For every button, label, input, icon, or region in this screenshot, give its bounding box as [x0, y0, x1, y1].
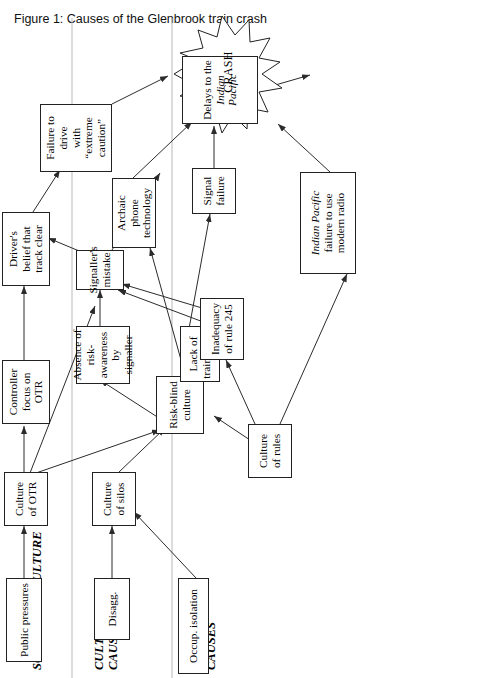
node-culture-otr[interactable]: Culture of OTR [4, 472, 48, 526]
edge-culture-otr-risk-blind [36, 430, 160, 473]
edge-drivers-belief-failure-drive [33, 170, 60, 212]
node-controller-focus[interactable]: Controller focus on OTR [2, 360, 50, 424]
node-ip-radio[interactable]: Indian Pacific failure to use modern rad… [300, 172, 356, 274]
edge-archaic-phone-delays-ip [133, 122, 192, 178]
crash-label: CRASH [215, 34, 241, 110]
node-delays-ip-plain: Delays to the [201, 60, 214, 120]
node-culture-rules[interactable]: Culture of rules [248, 424, 292, 478]
figure-page: Figure 1: Causes of the Glenbrook train … [0, 0, 492, 678]
node-inadequacy-245[interactable]: Inadequacy of rule 245 [200, 298, 244, 360]
node-occup-isolation[interactable]: Occup. isolation [178, 578, 209, 674]
node-absence-risk[interactable]: Absence of risk-awareness by signaller [76, 326, 130, 384]
edge-culture-rules-ip-radio [280, 274, 347, 424]
edge-ip-radio-delays-ip [278, 124, 330, 172]
node-ip-radio-italic: Indian Pacific [309, 191, 322, 255]
node-signallers-mistake[interactable]: Signaller's mistake [76, 250, 124, 290]
node-drivers-belief[interactable]: Driver's belief that track clear [2, 212, 50, 286]
node-risk-blind[interactable]: Risk-blind culture [156, 376, 204, 434]
node-ip-radio-rest: failure to use modern radio [322, 193, 348, 254]
node-public-pressures[interactable]: Public pressures [6, 578, 42, 662]
node-signal-failure[interactable]: Signal failure [192, 168, 236, 214]
edge-risk-blind-absence-risk [100, 380, 162, 420]
node-culture-silos[interactable]: Culture of silos [92, 472, 136, 526]
node-archaic-phone[interactable]: Archaic phone technology [112, 178, 156, 248]
node-failure-drive[interactable]: Failure to drive with “extreme caution” [40, 104, 112, 172]
edge-failure-drive-crash [112, 76, 168, 104]
edge-culture-silos-risk-blind [118, 428, 165, 473]
edge-occup-isolation-culture-silos [134, 512, 196, 578]
edge-culture-rules-inadequacy-245 [226, 360, 255, 424]
diagram-canvas: SOURCES OF CULTURE CULTURAL CAUSES SPECI… [0, 0, 492, 678]
node-disagg[interactable]: Disagg. [94, 578, 130, 640]
